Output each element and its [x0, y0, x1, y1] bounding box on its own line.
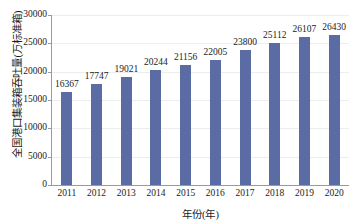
x-axis-title: 年份(年) [52, 206, 349, 221]
y-tick-label: 15000 [7, 94, 47, 104]
bar[interactable] [329, 35, 340, 185]
x-tick-label: 2020 [314, 188, 354, 198]
bar[interactable] [240, 50, 251, 185]
bar[interactable] [61, 92, 72, 185]
bar[interactable] [121, 77, 132, 185]
y-tick-label: 0 [7, 179, 47, 189]
bar-value-label: 26430 [311, 22, 357, 32]
y-tick-label: 20000 [7, 66, 47, 76]
y-tick-label: 25000 [7, 37, 47, 47]
bar-chart: 全国港口集装箱吞吐量(万标准箱) 05000100001500020000250… [0, 0, 359, 224]
bar[interactable] [210, 60, 221, 185]
bar[interactable] [150, 70, 161, 185]
y-tick-label: 30000 [7, 9, 47, 19]
plot-area [52, 15, 349, 185]
bar[interactable] [299, 37, 310, 185]
bar[interactable] [269, 43, 280, 185]
y-tick-label: 5000 [7, 151, 47, 161]
bar-value-label: 22005 [192, 47, 238, 57]
bar[interactable] [91, 84, 102, 185]
bar[interactable] [180, 65, 191, 185]
y-tick-label: 10000 [7, 122, 47, 132]
x-axis-line [51, 185, 349, 186]
